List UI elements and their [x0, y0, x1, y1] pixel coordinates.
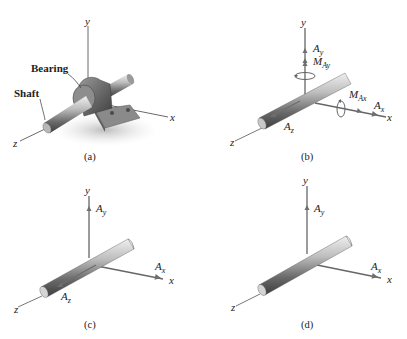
- x-axis-label: x: [169, 111, 175, 123]
- z-axis-label: z: [13, 303, 19, 315]
- ay-arrowhead: [305, 205, 310, 210]
- caption-d: (d): [301, 319, 314, 331]
- caption-b: (b): [301, 151, 314, 163]
- may-label: MAy: [312, 55, 331, 70]
- x-axis-label: x: [386, 273, 392, 285]
- y-axis-label: y: [302, 174, 308, 186]
- x-axis: [97, 266, 163, 279]
- bolt: [110, 111, 114, 115]
- shaft: [259, 236, 352, 295]
- z-axis-label: z: [229, 136, 235, 148]
- ax-label: Ax: [154, 260, 166, 275]
- z-axis-label: z: [12, 137, 18, 149]
- panel-a: y x z Bearing Shaft (a): [12, 15, 175, 163]
- bolt: [126, 108, 130, 112]
- az-label: Az: [60, 290, 72, 305]
- bearing-label: Bearing: [31, 62, 69, 74]
- ay-label: Ay: [313, 202, 325, 217]
- panel-d: y Ay x Ax z (d): [230, 174, 392, 331]
- y-axis-label: y: [84, 184, 90, 196]
- shaft-leader: [40, 99, 45, 120]
- shaft: [41, 239, 134, 297]
- z-axis: [235, 128, 262, 141]
- z-axis: [20, 129, 45, 141]
- max-arrowhead: [357, 108, 363, 114]
- shaft-label: Shaft: [14, 87, 39, 99]
- caption-c: (c): [84, 319, 96, 331]
- x-axis-label: x: [386, 111, 392, 123]
- y-axis-label: y: [84, 15, 90, 27]
- panel-b: y Ay MAy x MAx Ax z Az (b): [229, 16, 392, 163]
- z-axis-label: z: [230, 301, 236, 313]
- ay-arrowhead: [87, 206, 92, 211]
- panel-c: y Ay x Ax z Az (c): [13, 184, 174, 331]
- bearing-leader: [68, 74, 81, 88]
- az-label: Az: [283, 120, 295, 135]
- ax-arrowhead: [372, 111, 379, 118]
- caption-a: (a): [84, 151, 96, 163]
- ay-label: Ay: [95, 202, 107, 217]
- y-axis-label: y: [300, 16, 306, 28]
- figure-canvas: y x z Bearing Shaft (a) y A: [0, 0, 407, 339]
- ay-arrowhead: [303, 48, 308, 53]
- x-axis-label: x: [168, 274, 174, 286]
- max-label: MAx: [348, 88, 367, 103]
- z-axis: [18, 296, 42, 307]
- ax-label: Ax: [373, 99, 385, 114]
- z-axis: [236, 294, 260, 306]
- ax-label: Ax: [370, 260, 382, 275]
- ax-arrowhead: [155, 274, 162, 281]
